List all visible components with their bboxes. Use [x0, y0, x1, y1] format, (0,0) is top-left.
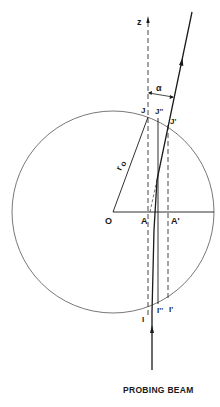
point-J-prime-label: J': [170, 117, 176, 126]
beam-arrow-lower-icon: [150, 325, 154, 333]
alpha-label: α: [156, 83, 162, 93]
probing-beam-diagram: z α J J'' J' r o O A A' I I'' I' PROBING…: [0, 0, 220, 407]
point-J-label: J: [141, 106, 145, 115]
point-I-label: I: [142, 315, 144, 324]
svg-text:o: o: [118, 160, 128, 168]
probing-beam-caption: PROBING BEAM: [123, 385, 194, 395]
point-J-double-prime-label: J'': [155, 107, 163, 116]
alpha-arrow-left-icon: [148, 91, 152, 95]
point-O-label: O: [105, 216, 112, 226]
z-axis-arrow-icon: [146, 16, 149, 23]
point-I-double-prime-label: I'': [157, 306, 163, 315]
point-A-prime-label: A': [171, 216, 180, 226]
radius-label: r o: [114, 159, 129, 173]
point-I-prime-label: I': [169, 305, 173, 314]
alpha-indicator-line: [149, 93, 173, 97]
z-axis-label: z: [137, 17, 142, 27]
point-A-label: A: [141, 216, 148, 226]
